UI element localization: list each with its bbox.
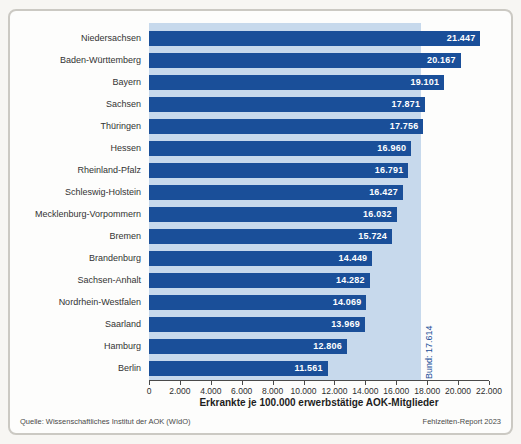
axis-tick bbox=[180, 381, 181, 385]
category-label: Bayern bbox=[10, 77, 149, 87]
bar-value-label: 14.282 bbox=[336, 275, 365, 285]
axis-tick bbox=[427, 381, 428, 385]
category-label: Brandenburg bbox=[10, 253, 149, 263]
axis-tick bbox=[365, 381, 366, 385]
chart-row: Bayern19.101 bbox=[10, 71, 511, 93]
chart-row: Saarland13.969 bbox=[10, 313, 511, 335]
bar-value-label: 16.791 bbox=[375, 165, 404, 175]
category-label: Sachsen bbox=[10, 99, 149, 109]
axis-tick-label: 18.000 bbox=[414, 386, 440, 396]
chart-row: Thüringen17.756 bbox=[10, 115, 511, 137]
bar-track: 12.806 bbox=[149, 339, 489, 354]
category-label: Bremen bbox=[10, 231, 149, 241]
axis-tick bbox=[489, 381, 490, 385]
bar-value-label: 16.960 bbox=[377, 143, 406, 153]
category-label: Mecklenburg-Vorpommern bbox=[10, 209, 149, 219]
category-label: Niedersachsen bbox=[10, 33, 149, 43]
bar: 14.282 bbox=[149, 273, 370, 288]
bar-value-label: 14.069 bbox=[333, 297, 362, 307]
axis-tick bbox=[304, 381, 305, 385]
category-label: Schleswig-Holstein bbox=[10, 187, 149, 197]
bar-track: 16.791 bbox=[149, 163, 489, 178]
bar: 16.427 bbox=[149, 185, 403, 200]
bar: 20.167 bbox=[149, 53, 461, 68]
chart-row: Hamburg12.806 bbox=[10, 335, 511, 357]
chart-row: Mecklenburg-Vorpommern16.032 bbox=[10, 203, 511, 225]
chart-row: Niedersachsen21.447 bbox=[10, 27, 511, 49]
x-axis-title: Erkrankte je 100.000 erwerbstätige AOK-M… bbox=[149, 397, 489, 408]
axis-tick bbox=[211, 381, 212, 385]
chart-row: Sachsen17.871 bbox=[10, 93, 511, 115]
chart-row: Nordrhein-Westfalen14.069 bbox=[10, 291, 511, 313]
category-label: Hessen bbox=[10, 143, 149, 153]
axis-tick-label: 14.000 bbox=[352, 386, 378, 396]
axis-tick-label: 6.000 bbox=[231, 386, 252, 396]
bar-value-label: 12.806 bbox=[313, 341, 342, 351]
axis-tick bbox=[396, 381, 397, 385]
bar-value-label: 19.101 bbox=[410, 77, 439, 87]
bar: 21.447 bbox=[149, 31, 480, 46]
bar-value-label: 20.167 bbox=[427, 55, 456, 65]
axis-tick-label: 2.000 bbox=[169, 386, 190, 396]
bar-track: 20.167 bbox=[149, 53, 489, 68]
bar-track: 13.969 bbox=[149, 317, 489, 332]
axis-tick-label: 16.000 bbox=[383, 386, 409, 396]
bar-value-label: 17.756 bbox=[390, 121, 419, 131]
chart-row: Hessen16.960 bbox=[10, 137, 511, 159]
bar-track: 16.960 bbox=[149, 141, 489, 156]
chart-row: Schleswig-Holstein16.427 bbox=[10, 181, 511, 203]
bar-track: 14.449 bbox=[149, 251, 489, 266]
bar-track: 16.032 bbox=[149, 207, 489, 222]
bar: 15.724 bbox=[149, 229, 392, 244]
bar-value-label: 13.969 bbox=[331, 319, 360, 329]
bar: 17.871 bbox=[149, 97, 425, 112]
bar-value-label: 16.032 bbox=[363, 209, 392, 219]
bar-value-label: 17.871 bbox=[391, 99, 420, 109]
bar-track: 11.561 bbox=[149, 361, 489, 376]
axis-tick-label: 10.000 bbox=[291, 386, 317, 396]
bar-track: 14.282 bbox=[149, 273, 489, 288]
axis-tick-label: 4.000 bbox=[200, 386, 221, 396]
bar-value-label: 11.561 bbox=[294, 363, 322, 373]
axis-tick-label: 12.000 bbox=[321, 386, 347, 396]
category-label: Baden-Württemberg bbox=[10, 55, 149, 65]
chart-row: Sachsen-Anhalt14.282 bbox=[10, 269, 511, 291]
axis-tick-label: 8.000 bbox=[262, 386, 283, 396]
chart-row: Bremen15.724 bbox=[10, 225, 511, 247]
chart-row: Berlin11.561 bbox=[10, 357, 511, 379]
bar: 16.791 bbox=[149, 163, 408, 178]
bar-track: 17.756 bbox=[149, 119, 489, 134]
x-axis: 02.0004.0006.0008.00010.00012.00014.0001… bbox=[149, 380, 489, 381]
bar-value-label: 16.427 bbox=[369, 187, 398, 197]
bar: 11.561 bbox=[149, 361, 328, 376]
bar-track: 19.101 bbox=[149, 75, 489, 90]
category-label: Hamburg bbox=[10, 341, 149, 351]
bar-track: 14.069 bbox=[149, 295, 489, 310]
chart-panel: Niedersachsen21.447Baden-Württemberg20.1… bbox=[8, 9, 513, 435]
bar: 16.960 bbox=[149, 141, 411, 156]
bar-track: 16.427 bbox=[149, 185, 489, 200]
axis-tick-label: 22.000 bbox=[476, 386, 502, 396]
bar-track: 21.447 bbox=[149, 31, 489, 46]
category-label: Thüringen bbox=[10, 121, 149, 131]
bar-value-label: 14.449 bbox=[339, 253, 368, 263]
axis-tick bbox=[273, 381, 274, 385]
category-label: Saarland bbox=[10, 319, 149, 329]
category-label: Sachsen-Anhalt bbox=[10, 275, 149, 285]
report-note: Fehlzeiten-Report 2023 bbox=[423, 417, 501, 426]
bund-reference-label: Bund: 17.614 bbox=[424, 305, 434, 379]
axis-tick bbox=[149, 381, 150, 385]
bar-track: 17.871 bbox=[149, 97, 489, 112]
category-label: Rheinland-Pfalz bbox=[10, 165, 149, 175]
bar-value-label: 21.447 bbox=[447, 33, 476, 43]
axis-tick bbox=[458, 381, 459, 385]
bar: 14.449 bbox=[149, 251, 372, 266]
bar: 19.101 bbox=[149, 75, 444, 90]
bar-value-label: 15.724 bbox=[358, 231, 387, 241]
bar: 12.806 bbox=[149, 339, 347, 354]
axis-tick-label: 20.000 bbox=[445, 386, 471, 396]
chart-row: Baden-Württemberg20.167 bbox=[10, 49, 511, 71]
source-note: Quelle: Wissenschaftliches Institut der … bbox=[20, 417, 190, 426]
chart-rows: Niedersachsen21.447Baden-Württemberg20.1… bbox=[10, 27, 511, 379]
category-label: Berlin bbox=[10, 363, 149, 373]
